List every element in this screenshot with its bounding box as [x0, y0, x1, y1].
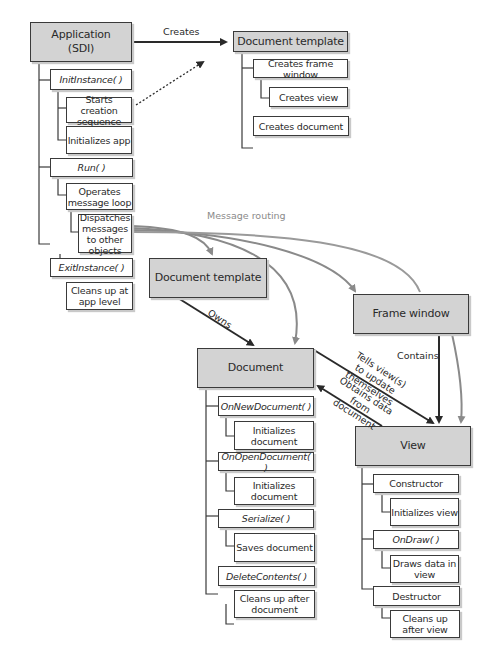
- creates-frame-window-box: Creates frame window: [253, 59, 348, 78]
- doc-template-top-box: Document template: [233, 31, 348, 52]
- init-instance-box: InitInstance( ): [50, 69, 132, 90]
- creates-view-box: Creates view: [269, 87, 348, 107]
- doc-template-box: Document template: [149, 258, 267, 298]
- on-draw-box: OnDraw( ): [373, 530, 459, 549]
- delete-contents-box: DeleteContents( ): [218, 566, 315, 586]
- frame-window-box: Frame window: [353, 294, 469, 334]
- initializes-document-box-1: Initializes document: [234, 421, 314, 450]
- cleans-up-view-box: Cleans up after view: [390, 610, 460, 638]
- run-box: Run( ): [50, 158, 133, 177]
- dispatches-messages-box: Dispatches messages to other objects: [78, 214, 132, 253]
- saves-document-box: Saves document: [234, 533, 315, 562]
- draws-data-box: Draws data in view: [390, 555, 459, 583]
- initializes-document-box-2: Initializes document: [234, 477, 314, 505]
- constructor-box: Constructor: [373, 474, 459, 493]
- cleans-up-app-box: Cleans up at app level: [66, 282, 133, 310]
- operates-loop-box: Operates message loop: [66, 183, 133, 210]
- document-box: Document: [197, 348, 314, 388]
- message-routing-label: Message routing: [207, 210, 286, 221]
- on-new-document-box: OnNewDocument( ): [218, 396, 314, 416]
- starts-creation-box: Starts creation sequence: [66, 97, 132, 123]
- creates-document-box: Creates document: [253, 116, 349, 136]
- creates-label: Creates: [163, 26, 200, 37]
- contains-label: Contains: [397, 350, 439, 361]
- on-open-document-box: OnOpenDocument( ): [218, 452, 314, 471]
- application-box: Application (SDI): [30, 22, 132, 62]
- cleans-up-document-box: Cleans up after document: [234, 590, 315, 618]
- initializes-view-box: Initializes view: [390, 498, 459, 526]
- exit-instance-box: ExitInstance( ): [50, 258, 133, 277]
- serialize-box: Serialize( ): [218, 509, 314, 528]
- destructor-box: Destructor: [373, 586, 460, 606]
- initializes-app-box: Initializes app: [66, 126, 132, 154]
